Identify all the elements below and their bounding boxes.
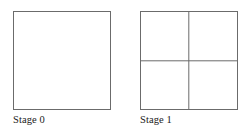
stage-0-square (13, 11, 111, 110)
figure-canvas: Stage 0 Stage 1 (0, 0, 249, 132)
stage-1-group: Stage 1 (140, 11, 238, 110)
stage-0-label: Stage 0 (13, 113, 45, 126)
stage-1-square (140, 11, 238, 110)
stage-0-group: Stage 0 (13, 11, 111, 110)
stage-1-label: Stage 1 (140, 113, 172, 126)
stage-1-horizontal-divider (141, 60, 237, 61)
